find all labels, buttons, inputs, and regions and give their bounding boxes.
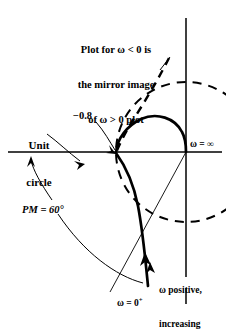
omega-positive-line-2: increasing [159,319,202,330]
unit-circle-leader-arrowhead [74,161,85,170]
omega-positive-label: ω positive, increasing [159,262,202,333]
omega-infinity-label: ω = ∞ [190,139,214,150]
mirror-note-line-2: the mirror image [58,79,174,91]
unit-circle-label-line-1: Unit [8,139,70,151]
unit-circle-label: Unit circle [8,114,70,213]
unit-circle-label-line-2: circle [8,176,70,188]
mirror-note-line-1: Plot for ω < 0 is [58,44,174,56]
mirror-image-note: Plot for ω < 0 is the mirror image of ω … [58,20,174,149]
omega-positive-line-1: ω positive, [159,285,202,296]
omega-zero-plus-base: ω = 0 [117,298,139,308]
omega-zero-plus-label: ω = 0+ [117,296,143,309]
omega-zero-plus-superscript: + [139,296,143,303]
phase-margin-label: PM = 60° [22,204,64,216]
gain-crossing-label: −0.8 [73,110,92,122]
phase-margin-arc [58,214,143,283]
